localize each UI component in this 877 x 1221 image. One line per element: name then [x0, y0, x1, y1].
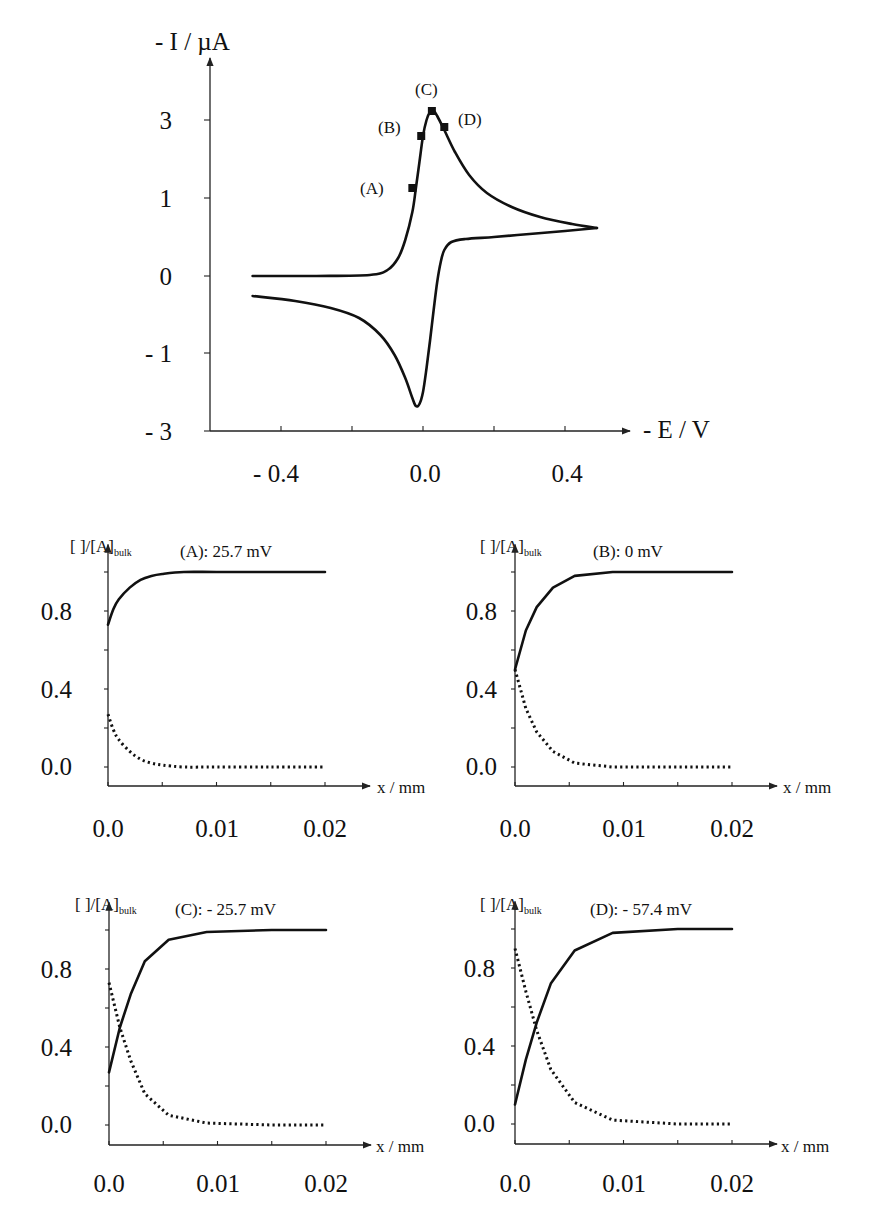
cv-curves	[253, 111, 597, 407]
reduced-concentration-line	[515, 949, 732, 1125]
oxidized-concentration-line	[515, 572, 732, 670]
panel-d-y-tick-label: 0.4	[464, 1033, 496, 1060]
concentration-panel-a: [ ]/[A]bulk (A): 25.7 mV x / mm 0.8 0.4 …	[41, 537, 425, 842]
panel-a-y-tick-label: 0.4	[41, 676, 73, 703]
reduced-concentration-line	[108, 714, 325, 767]
cv-x-tick-labels: - 0.4 0.0 0.4	[253, 460, 583, 487]
panel-b-x-tick-label: 0.0	[499, 815, 530, 842]
panel-c-y-tick-label: 0.0	[41, 1111, 72, 1138]
cv-x-tick-label: - 0.4	[253, 460, 299, 487]
panel-a-title: (A): 25.7 mV	[180, 542, 273, 561]
panel-d-x-axis-title: x / mm	[781, 1137, 829, 1156]
panel-a-x-tick-label: 0.01	[195, 815, 239, 842]
cv-y-tick-labels: 3 1 0 - 1 - 3	[145, 107, 172, 445]
cv-x-axis-title: - E / V	[643, 416, 710, 443]
figure: - I / µA - E / V 3 1 0 - 1 - 3 - 0.4 0.0…	[0, 0, 877, 1221]
panel-b-x-tick-label: 0.01	[602, 815, 646, 842]
panel-c-x-axis-title: x / mm	[376, 1137, 424, 1156]
panel-c-title: (C): - 25.7 mV	[175, 900, 277, 919]
panel-a-y-tick-label: 0.8	[41, 598, 72, 625]
panel-c-x-tick-label: 0.01	[196, 1170, 240, 1197]
cv-point-markers: (A) (B) (C) (D)	[360, 80, 482, 198]
panel-b-x-axis-title: x / mm	[783, 778, 831, 797]
panel-a-x-axis-title: x / mm	[377, 778, 425, 797]
marker-label-b: (B)	[378, 118, 401, 137]
concentration-panel-c: [ ]/[A]bulk (C): - 25.7 mV x / mm 0.8 0.…	[41, 895, 424, 1197]
panel-b-y-tick-label: 0.4	[466, 676, 498, 703]
cv-axes	[204, 58, 630, 431]
panel-d-y-axis-title: [ ]/[A]bulk	[480, 895, 542, 916]
marker-label-d: (D)	[458, 110, 482, 129]
cv-reverse-sweep-line	[253, 228, 597, 406]
panel-b-x-tick-label: 0.02	[710, 815, 754, 842]
cv-y-tick-label: - 3	[145, 418, 172, 445]
reduced-concentration-line	[109, 983, 326, 1125]
concentration-panel-b: [ ]/[A]bulk (B): 0 mV x / mm 0.8 0.4 0.0…	[466, 537, 831, 842]
reduced-concentration-line	[515, 670, 732, 768]
cv-y-tick-label: 0	[160, 263, 173, 290]
marker-label-a: (A)	[360, 179, 384, 198]
cv-point-marker-c	[428, 107, 436, 115]
panel-c-y-axis-title: [ ]/[A]bulk	[75, 895, 137, 916]
cv-point-marker-b	[417, 132, 425, 140]
panel-c-x-tick-label: 0.02	[304, 1170, 348, 1197]
cv-point-marker-d	[440, 123, 448, 131]
panel-c-x-tick-label: 0.0	[93, 1170, 124, 1197]
cv-point-marker-a	[408, 184, 416, 192]
panel-b-y-axis-title: [ ]/[A]bulk	[480, 537, 542, 558]
panel-b-y-tick-label: 0.0	[466, 753, 497, 780]
panel-b-y-tick-label: 0.8	[466, 598, 497, 625]
cv-x-tick-label: 0.0	[409, 460, 440, 487]
panel-a-y-tick-label: 0.0	[41, 753, 72, 780]
panel-d-x-tick-label: 0.0	[499, 1170, 530, 1197]
cv-y-tick-label: - 1	[145, 340, 172, 367]
figure-canvas: - I / µA - E / V 3 1 0 - 1 - 3 - 0.4 0.0…	[0, 0, 877, 1221]
cv-x-tick-label: 0.4	[551, 460, 583, 487]
panel-c-y-tick-label: 0.8	[41, 956, 72, 983]
panel-b-plot-area	[511, 545, 777, 787]
panel-a-x-tick-label: 0.0	[92, 815, 123, 842]
panel-d-plot-area	[511, 902, 777, 1145]
panel-d-x-tick-label: 0.01	[602, 1170, 646, 1197]
concentration-panel-d: [ ]/[A]bulk (D): - 57.4 mV x / mm 0.8 0.…	[464, 895, 829, 1197]
panel-a-x-tick-label: 0.02	[303, 815, 347, 842]
panel-b-title: (B): 0 mV	[593, 542, 664, 561]
panel-c-plot-area	[105, 903, 371, 1146]
panel-d-title: (D): - 57.4 mV	[590, 900, 693, 919]
cyclic-voltammogram-chart: - I / µA - E / V 3 1 0 - 1 - 3 - 0.4 0.0…	[145, 28, 710, 487]
oxidized-concentration-line	[109, 930, 326, 1072]
panel-c-y-tick-label: 0.4	[41, 1034, 73, 1061]
cv-y-tick-label: 1	[160, 185, 173, 212]
panel-d-x-tick-label: 0.02	[710, 1170, 754, 1197]
oxidized-concentration-line	[108, 572, 325, 625]
panel-d-y-tick-label: 0.8	[464, 955, 495, 982]
panel-a-y-axis-title: [ ]/[A]bulk	[70, 537, 132, 558]
oxidized-concentration-line	[515, 929, 732, 1105]
cv-y-tick-label: 3	[160, 107, 173, 134]
marker-label-c: (C)	[415, 80, 438, 99]
panel-a-plot-area	[104, 545, 370, 787]
cv-y-axis-title: - I / µA	[155, 28, 230, 55]
panel-d-y-tick-label: 0.0	[464, 1110, 495, 1137]
